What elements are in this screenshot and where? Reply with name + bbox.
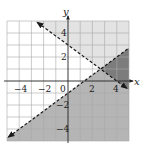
x-tick-label: −2 xyxy=(38,84,51,94)
x-tick-label: 4 xyxy=(113,84,119,94)
y-tick-label: −2 xyxy=(56,100,69,110)
y-tick-label: −4 xyxy=(56,124,70,134)
x-tick-label: 0 xyxy=(60,84,66,94)
x-axis-label: x xyxy=(134,76,140,87)
y-tick-label: 2 xyxy=(61,52,67,62)
x-tick-label: −4 xyxy=(14,84,28,94)
x-tick-label: 2 xyxy=(89,84,95,94)
y-tick-label: 4 xyxy=(61,28,67,38)
inequality-graph: x y −4 −2 0 2 4 4 2 −2 −4 xyxy=(0,0,147,144)
y-axis-label: y xyxy=(62,6,69,17)
